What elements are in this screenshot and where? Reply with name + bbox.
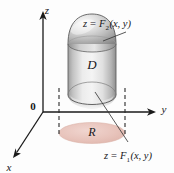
x-axis — [13, 112, 43, 158]
x-axis-line — [17, 112, 43, 152]
cylinder-wall — [68, 44, 116, 105]
figure-container: z y x 0 R — [0, 0, 174, 173]
solid-region-diagram: z y x 0 R — [0, 0, 174, 173]
x-axis-label: x — [6, 161, 12, 173]
x-axis-arrowhead — [13, 148, 21, 158]
bottom-eq-equals: = — [111, 150, 117, 161]
bottom-eq-args: (x, y) — [130, 150, 152, 162]
y-axis — [43, 108, 156, 115]
top-eq-lhs: z — [82, 18, 87, 29]
bottom-surface-equation: z=F1(x, y) — [103, 150, 153, 163]
z-axis — [39, 11, 46, 112]
solid-d-label: D — [86, 57, 97, 72]
top-eq-args: (x, y) — [109, 18, 131, 30]
bottom-eq-lhs: z — [103, 150, 108, 161]
z-axis-label: z — [44, 4, 50, 16]
region-r: R — [59, 123, 125, 144]
bottom-surface-equation-text: z=F1(x, y) — [103, 150, 153, 163]
origin-label: 0 — [30, 100, 36, 112]
y-axis-label: y — [161, 103, 167, 115]
region-r-label: R — [87, 125, 96, 139]
top-eq-equals: = — [90, 18, 96, 29]
